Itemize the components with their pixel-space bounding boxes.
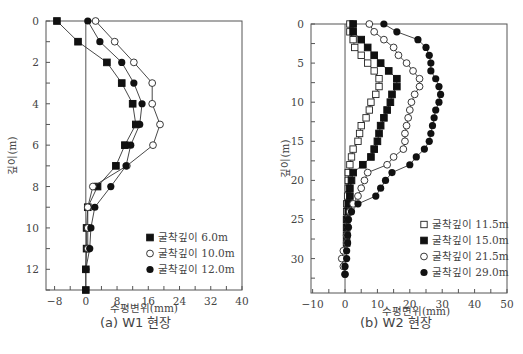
- legend: 굴착깊이 6.0m굴착깊이 10.0m굴착깊이 12.0m: [146, 231, 234, 275]
- x-tick-label: −10: [302, 298, 324, 310]
- legend-item: 굴착깊이 11.5m: [432, 218, 509, 230]
- y-tick-label: 12: [26, 263, 39, 275]
- x-tick-label: 40: [468, 298, 481, 310]
- x-tick-label: 32: [204, 295, 217, 307]
- legend-item: 굴착깊이 21.5m: [432, 250, 509, 262]
- y-tick-label: 0: [297, 18, 304, 30]
- y-tick-label: 6: [32, 139, 39, 151]
- y-axis-label: 깊이(m): [279, 139, 291, 177]
- chart-caption: (b) W2 현장: [360, 315, 432, 330]
- legend: 굴착깊이 11.5m굴착깊이 15.0m굴착깊이 21.5m굴착깊이 29.0m: [420, 218, 508, 278]
- y-tick-label: 8: [32, 181, 39, 193]
- series-1: [54, 18, 139, 294]
- y-tick-label: 30: [291, 253, 304, 265]
- left-chart: −80816243240024681012수평변위(mm)깊이(m)굴착깊이 6…: [6, 15, 249, 330]
- legend-item: 굴착깊이 12.0m: [158, 263, 235, 275]
- y-tick-label: 20: [291, 174, 304, 186]
- y-tick-label: 10: [291, 96, 304, 108]
- x-tick-label: −8: [47, 295, 62, 307]
- legend-item: 굴착깊이 29.0m: [432, 266, 509, 278]
- legend-item: 굴착깊이 6.0m: [158, 231, 228, 243]
- x-tick-label: 0: [342, 298, 349, 310]
- y-axis-label: 깊이(m): [6, 136, 18, 174]
- chart-canvas: −80816243240024681012수평변위(mm)깊이(m)굴착깊이 6…: [0, 0, 523, 354]
- y-tick-label: 10: [26, 222, 39, 234]
- y-tick-label: 15: [291, 135, 304, 147]
- chart-caption: (a) W1 현장: [100, 315, 172, 330]
- y-tick-label: 0: [32, 15, 39, 27]
- legend-item: 굴착깊이 15.0m: [432, 234, 509, 246]
- figure: −80816243240024681012수평변위(mm)깊이(m)굴착깊이 6…: [0, 0, 523, 354]
- right-chart: −1001020304050051015202530수평변위(mm)깊이(m)굴…: [279, 18, 514, 330]
- series-3: [82, 17, 145, 273]
- x-axis-label: 수평변위(mm): [110, 302, 178, 314]
- x-tick-label: 40: [235, 295, 248, 307]
- y-tick-label: 25: [291, 213, 304, 225]
- series-4: [341, 20, 444, 277]
- x-tick-label: 50: [500, 298, 513, 310]
- legend-item: 굴착깊이 10.0m: [158, 247, 235, 259]
- series-2: [84, 18, 163, 252]
- y-tick-label: 4: [32, 98, 39, 110]
- y-tick-label: 2: [32, 56, 39, 68]
- y-tick-label: 5: [297, 57, 304, 69]
- x-tick-label: 0: [82, 295, 89, 307]
